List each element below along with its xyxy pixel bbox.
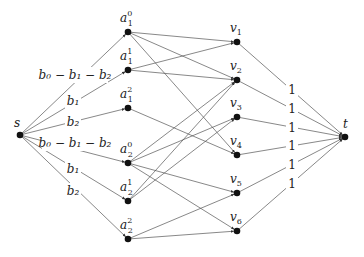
edge-a21-v2 (128, 82, 235, 201)
edge-a12-v4 (128, 108, 234, 154)
node-label: a22 (120, 216, 133, 235)
node-label: a21 (120, 85, 133, 104)
node-dot (234, 190, 241, 197)
capacity-label-source-edge: b₂ (67, 184, 80, 198)
flow-network-diagram: b₀ − b₁ − b₂b₁b₂b₀ − b₁ − b₂b₁b₂111111 s… (0, 0, 364, 257)
node-label: a11 (120, 47, 133, 66)
edge-a20-v2 (128, 82, 234, 163)
node-label: v3 (230, 96, 242, 112)
capacity-label-sink-edge: 1 (288, 139, 296, 153)
capacity-label-source-edge: b₁ (67, 162, 80, 176)
node-dot (342, 134, 349, 141)
node-v5: v5 (230, 172, 242, 196)
node-label: a12 (120, 178, 133, 197)
nodes-layer: sa01a11a21a02a12a22v1v2v3v4v5v6t (14, 9, 348, 242)
edge-a20-v3 (128, 118, 234, 163)
node-v6: v6 (230, 210, 242, 234)
capacity-label-sink-edge: 1 (288, 158, 296, 172)
node-label: v1 (230, 21, 242, 37)
capacity-label-sink-edge: 1 (288, 102, 296, 116)
node-t: t (342, 117, 349, 140)
node-v3: v3 (230, 96, 242, 120)
capacity-label-sink-edge: 1 (288, 83, 296, 97)
node-dot (125, 29, 132, 36)
node-dot (234, 39, 241, 46)
node-v4: v4 (230, 134, 242, 158)
node-dot (234, 114, 241, 121)
edge-a11-v1 (128, 43, 234, 70)
node-a10: a01 (120, 9, 133, 35)
node-a11: a11 (120, 47, 133, 73)
node-dot (234, 228, 241, 235)
node-label: v5 (230, 172, 242, 188)
node-label: v6 (230, 210, 242, 226)
capacity-label-source-edge: b₀ − b₁ − b₂ (39, 68, 112, 82)
node-a20: a02 (120, 140, 133, 166)
node-label: v2 (230, 59, 242, 75)
node-dot (125, 236, 132, 243)
capacity-label-sink-edge: 1 (288, 177, 296, 191)
node-dot (17, 132, 24, 139)
edge-label-backgrounds (42, 67, 298, 199)
node-a22: a22 (120, 216, 133, 242)
node-label: a01 (120, 9, 133, 28)
capacity-label-sink-edge: 1 (288, 121, 296, 135)
node-dot (125, 105, 132, 112)
node-label: t (343, 117, 348, 131)
node-label: v4 (230, 134, 242, 150)
capacity-label-source-edge: b₁ (67, 94, 80, 108)
edge-a20-v6 (128, 163, 234, 229)
node-a21: a12 (120, 178, 133, 204)
node-dot (125, 67, 132, 74)
node-dot (234, 152, 241, 159)
capacity-label-source-edge: b₀ − b₁ − b₂ (39, 136, 112, 150)
edge-a20-v5 (128, 163, 234, 192)
node-label: a02 (120, 140, 133, 159)
node-dot (125, 198, 132, 205)
edge-a10-v1 (128, 32, 234, 42)
edge-a10-v4 (128, 32, 235, 153)
capacity-label-source-edge: b₂ (67, 115, 80, 129)
node-s: s (14, 116, 23, 138)
node-dot (125, 160, 132, 167)
node-label: s (14, 116, 20, 130)
node-a12: a21 (120, 85, 133, 111)
node-dot (234, 77, 241, 84)
